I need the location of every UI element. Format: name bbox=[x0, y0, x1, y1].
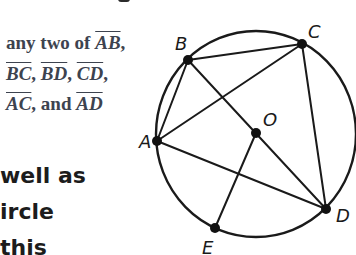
label-c: C bbox=[308, 21, 321, 42]
point-c-dot bbox=[297, 39, 307, 49]
chord-ac bbox=[157, 44, 302, 141]
point-d-dot bbox=[321, 204, 331, 214]
label-e: E bbox=[202, 237, 214, 255]
point-e-dot bbox=[210, 223, 220, 233]
circle-diagram: A B C D E O bbox=[0, 0, 356, 255]
chord-cd bbox=[302, 44, 326, 209]
label-o: O bbox=[263, 109, 277, 130]
point-a-dot bbox=[152, 136, 162, 146]
point-b-dot bbox=[183, 55, 193, 65]
label-a: A bbox=[138, 131, 151, 152]
label-d: D bbox=[336, 205, 350, 226]
chord-ad bbox=[157, 141, 326, 209]
label-b: B bbox=[175, 33, 187, 54]
point-o-dot bbox=[251, 128, 261, 138]
radius-oe bbox=[215, 133, 256, 228]
